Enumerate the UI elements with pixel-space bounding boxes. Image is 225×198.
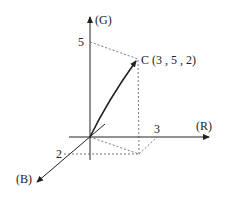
b-tick-label: 2 [56, 147, 62, 161]
r-tick-label: 3 [154, 122, 160, 136]
g-axis-label: (G) [95, 13, 112, 27]
b-axis-label: (B) [16, 172, 32, 186]
vector-c [90, 61, 136, 137]
g-tick-label: 5 [78, 35, 84, 49]
b-axis [37, 124, 105, 182]
rgb-vector-diagram: (G) 5 C (3 , 5 , 2) (R) 3 2 (B) [0, 0, 225, 198]
point-c-label: C (3 , 5 , 2) [141, 53, 196, 67]
r-axis-label: (R) [196, 119, 212, 133]
